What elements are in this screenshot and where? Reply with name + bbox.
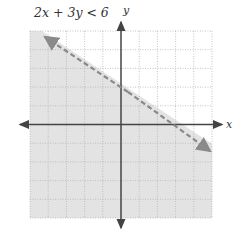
inequality-label: 2x + 3y < 6 xyxy=(33,5,109,20)
inequality-graph: 2x + 3y < 6 y x xyxy=(0,0,241,240)
y-axis-label: y xyxy=(122,4,130,17)
x-axis-label: x xyxy=(226,118,233,131)
